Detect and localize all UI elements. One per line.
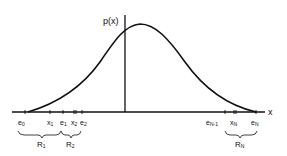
svg-text:eN: eN [251, 119, 259, 127]
svg-text:e1: e1 [60, 119, 67, 127]
svg-text:e0: e0 [18, 119, 25, 127]
region-labels: R1 R2 RN [37, 140, 245, 149]
svg-text:xN: xN [230, 119, 238, 127]
svg-text:x2: x2 [71, 119, 78, 127]
svg-text:R1: R1 [37, 140, 46, 149]
quantization-diagram: x p(x) e0 x1 e1 x2 e2 eN-1 xN eN R1 R2 [0, 0, 287, 156]
x-axis-label: x [268, 107, 273, 117]
svg-text:eN-1: eN-1 [206, 119, 218, 127]
svg-text:R2: R2 [66, 140, 75, 149]
pdf-curve [28, 24, 256, 112]
svg-text:RN: RN [235, 140, 245, 149]
tick-labels: e0 x1 e1 x2 e2 eN-1 xN eN [18, 119, 259, 127]
svg-text:x1: x1 [47, 119, 54, 127]
region-braces [18, 131, 257, 138]
svg-text:e2: e2 [80, 119, 87, 127]
y-axis-label: p(x) [103, 16, 119, 26]
